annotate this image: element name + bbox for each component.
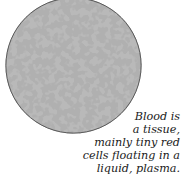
caption-line: cells floating in a	[0, 149, 180, 162]
caption-line: mainly tiny red	[0, 136, 180, 149]
caption-line: a tissue,	[0, 123, 180, 136]
caption: Blood is a tissue, mainly tiny red cells…	[0, 110, 180, 175]
caption-line: Blood is	[0, 110, 180, 123]
caption-line: liquid, plasma.	[0, 162, 180, 175]
